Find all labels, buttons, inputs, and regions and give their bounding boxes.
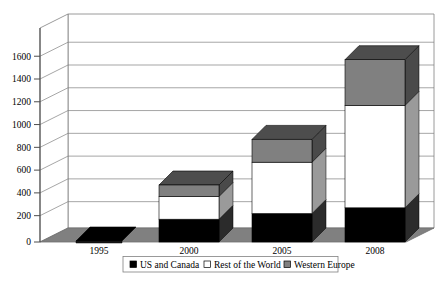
stacked-bar-chart-3d: 1600 1400 1200 1000 800 600 400 200 0 [0, 0, 447, 282]
legend: US and Canada Rest of the World Western … [123, 257, 355, 273]
y-tick-label: 200 [17, 211, 32, 221]
x-category-label-1995: 1995 [90, 246, 109, 256]
bar-segment-rest-of-the-world-2005[interactable] [252, 162, 312, 213]
bar-front-face-1995 [76, 241, 122, 243]
legend-swatch-western-europe [284, 261, 291, 268]
legend-label-rest-of-the-world: Rest of the World [214, 260, 281, 270]
y-tick-label: 400 [17, 188, 32, 198]
y-tick-label: 600 [17, 165, 32, 175]
y-tick-label: 1000 [12, 120, 31, 130]
y-tick-label: 1400 [12, 74, 31, 84]
bar-segment-western-europe-2008[interactable] [345, 60, 405, 106]
y-axis [34, 28, 40, 242]
y-tick-label: 800 [17, 143, 32, 153]
bar-segment-us-and-canada-2000[interactable] [159, 219, 219, 242]
legend-swatch-us-and-canada [130, 261, 137, 268]
bar-group-2008[interactable] [345, 46, 419, 242]
x-category-label-2000: 2000 [180, 246, 199, 256]
bar-group-2005[interactable] [252, 125, 326, 242]
bar-segment-western-europe-2000[interactable] [159, 185, 219, 196]
x-axis-category-labels: 1995 2000 2005 2008 [90, 246, 385, 256]
x-category-label-2005: 2005 [273, 246, 292, 256]
bar-segment-us-and-canada-2005[interactable] [252, 214, 312, 243]
bar-segment-us-and-canada-2008[interactable] [345, 208, 405, 242]
plot-left-wall [40, 14, 68, 242]
y-tick-label: 0 [26, 237, 31, 247]
legend-swatch-rest-of-the-world [204, 261, 211, 268]
chart-container: 1600 1400 1200 1000 800 600 400 200 0 [0, 0, 447, 282]
legend-label-western-europe: Western Europe [294, 260, 355, 270]
y-axis-tick-labels: 1600 1400 1200 1000 800 600 400 200 0 [12, 52, 31, 248]
bar-segment-western-europe-2005[interactable] [252, 139, 312, 162]
bar-segment-rest-of-the-world-2008[interactable] [345, 105, 405, 208]
y-tick-label: 1200 [12, 97, 31, 107]
y-tick-label: 1600 [12, 52, 31, 62]
bar-segment-rest-of-the-world-2000[interactable] [159, 196, 219, 219]
legend-label-us-and-canada: US and Canada [140, 260, 200, 270]
bar-group-2000[interactable] [159, 171, 233, 242]
bar-side-rest-of-the-world-2008 [405, 91, 419, 208]
x-category-label-2008: 2008 [366, 246, 385, 256]
